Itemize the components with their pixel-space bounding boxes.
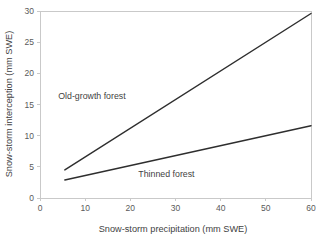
x-tick-label: 0 (38, 203, 43, 213)
y-tick-label: 5 (29, 162, 34, 172)
y-tick-label: 25 (25, 37, 35, 47)
y-tick-label: 0 (29, 193, 34, 203)
x-tick-label: 20 (126, 203, 136, 213)
y-axis-title: Snow-storm interception (mm SWE) (4, 31, 14, 178)
y-tick-label: 10 (25, 131, 35, 141)
x-tick-label: 50 (261, 203, 271, 213)
x-tick-label: 60 (306, 203, 316, 213)
tick-labels-group: 0510152025300102030405060 (25, 6, 316, 213)
series-annotation-label: Thinned forest (138, 169, 195, 179)
x-axis-title: Snow-storm precipitation (mm SWE) (99, 224, 248, 234)
chart-figure: 0510152025300102030405060 Old-growth for… (0, 0, 326, 240)
x-tick-label: 10 (80, 203, 90, 213)
line-chart: 0510152025300102030405060 Old-growth for… (0, 0, 326, 240)
x-tick-label: 30 (171, 203, 181, 213)
series-annotation-label: Old-growth forest (58, 91, 126, 101)
y-tick-label: 20 (25, 68, 35, 78)
y-tick-label: 15 (25, 100, 35, 110)
y-tick-label: 30 (25, 6, 35, 16)
x-tick-label: 40 (216, 203, 226, 213)
